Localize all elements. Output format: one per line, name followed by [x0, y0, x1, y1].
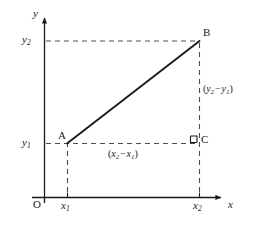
v-close: ) — [229, 83, 232, 94]
x-axis-label: x — [228, 199, 233, 210]
coordinate-geometry-figure: y x O y2 y1 x1 x2 A B C (x2 − x1) (y2 − … — [0, 0, 253, 229]
point-label-A: A — [58, 130, 66, 141]
segment-AB — [67, 41, 200, 144]
h-first-sub: 2 — [116, 153, 119, 160]
y1-sub: 1 — [27, 141, 31, 150]
x-axis-tick-label-x2: x2 — [193, 200, 202, 213]
y-axis-tick-label-y2: y2 — [22, 34, 31, 47]
origin-label: O — [33, 199, 41, 210]
h-close: ) — [134, 148, 137, 159]
x-axis-tick-label-x1: x1 — [61, 200, 70, 213]
right-angle-marker-icon-2 — [191, 136, 198, 143]
v-minus: − — [215, 83, 221, 94]
annotation-horizontal-leg: (x2 − x1) — [108, 149, 138, 161]
h-minus: − — [120, 148, 126, 159]
v-first-sub: 2 — [211, 88, 214, 95]
point-label-B: B — [203, 27, 210, 38]
annotation-vertical-leg: (y2 − y1) — [203, 84, 233, 96]
y2-sub: 2 — [27, 38, 31, 47]
y-axis-tick-label-y1: y1 — [22, 137, 31, 150]
x2-sub: 2 — [198, 204, 202, 213]
figure-canvas — [0, 0, 253, 229]
right-angle-marker-icon — [191, 136, 198, 143]
point-label-C: C — [201, 134, 208, 145]
y-axis-label: y — [33, 8, 38, 19]
x1-sub: 1 — [66, 204, 70, 213]
